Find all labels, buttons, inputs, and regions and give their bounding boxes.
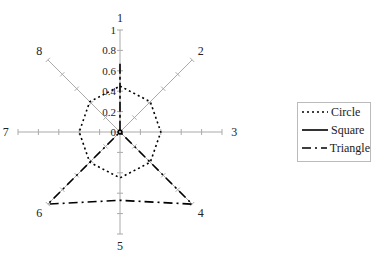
category-label: 3 (231, 125, 237, 139)
category-label: 1 (117, 11, 123, 25)
category-label: 6 (36, 206, 42, 220)
category-label: 8 (36, 44, 42, 58)
radial-tick-label: 0.6 (102, 65, 116, 77)
radial-tick-label: 0.2 (102, 106, 116, 118)
radial-tick-label: 1 (111, 24, 117, 36)
dash-dot-line-icon (302, 145, 327, 151)
legend-item-circle: Circle (298, 103, 370, 121)
axis-line (120, 60, 192, 132)
category-label: 4 (198, 206, 204, 220)
category-label: 2 (198, 44, 204, 58)
dotted-line-icon (302, 109, 328, 115)
legend-item-triangle: Triangle (298, 139, 370, 157)
solid-line-icon (302, 127, 328, 133)
category-label: 7 (3, 125, 9, 139)
category-label: 5 (117, 239, 123, 253)
radial-tick-label: 0 (111, 126, 117, 138)
legend-item-square: Square (298, 121, 370, 139)
legend: Circle Square Triangle (297, 102, 371, 162)
radial-tick-label: 0.4 (102, 85, 116, 97)
radial-tick-label: 0.8 (102, 44, 116, 56)
